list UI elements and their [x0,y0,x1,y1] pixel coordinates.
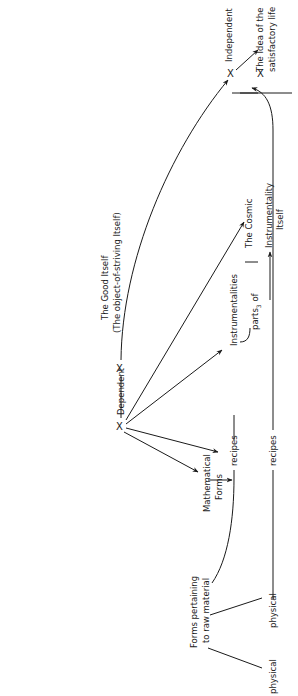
dependent-label: Dependent [116,367,126,415]
edge-dependent-to-instrumentalities [126,350,222,424]
edge-good-to-independent [121,80,228,360]
raw-material-forms-label: Forms pertaining to raw material [189,576,211,648]
mathematical-forms-label: Mathematical Forms [202,454,224,512]
good-itself-label: The Good Itself (The object-of-striving … [100,212,122,333]
good-itself-subtitle: (The object-of-striving Itself) [112,212,122,333]
cosmic-label: The Cosmic [244,198,254,249]
parts-prefix: parts [250,308,260,330]
independent-x-marker: X [227,68,234,79]
edge-raw-to-physical-b [208,648,262,668]
physical-label-a: physical [268,593,278,628]
raw-forms-line2: to raw material [201,578,211,643]
parts-suffix: of [250,292,260,304]
mathematical-line1: Mathematical [202,454,212,512]
independent-label: Independent [224,7,234,62]
edge-dependent-to-cosmic [126,222,244,420]
edge-dependent-to-mathematical [124,432,198,472]
dependent-x-marker: X [116,421,123,432]
idea-line2: satisfactory life [267,7,277,72]
raw-forms-line1: Forms pertaining [189,576,199,648]
instrumentality-line1: Instrumentality [264,183,274,248]
physical-label-b: physical [268,659,278,694]
good-itself-title: The Good Itself [100,255,110,321]
mathematical-line2: Forms [214,474,224,500]
instrumentality-line2: Itself [275,208,285,230]
idea-line1: The Idea of the [255,8,265,73]
recipes-outer-label: recipes [268,435,278,466]
instrumentality-itself-label: Instrumentality Itself [264,183,285,248]
good-itself-diagram: X X X X The Good Itself (The object-of-s… [0,0,298,696]
idea-label: The Idea of the satisfactory life [255,7,277,73]
parts-label: parts3 of [250,292,262,330]
svg-text:parts3 of: parts3 of [250,292,262,330]
edge-parts-brace [240,328,250,342]
recipes-inner-label: recipes [229,435,239,466]
instrumentalities-label: Instrumentalities [229,273,239,346]
edge-raw-to-physical-a [210,598,262,615]
